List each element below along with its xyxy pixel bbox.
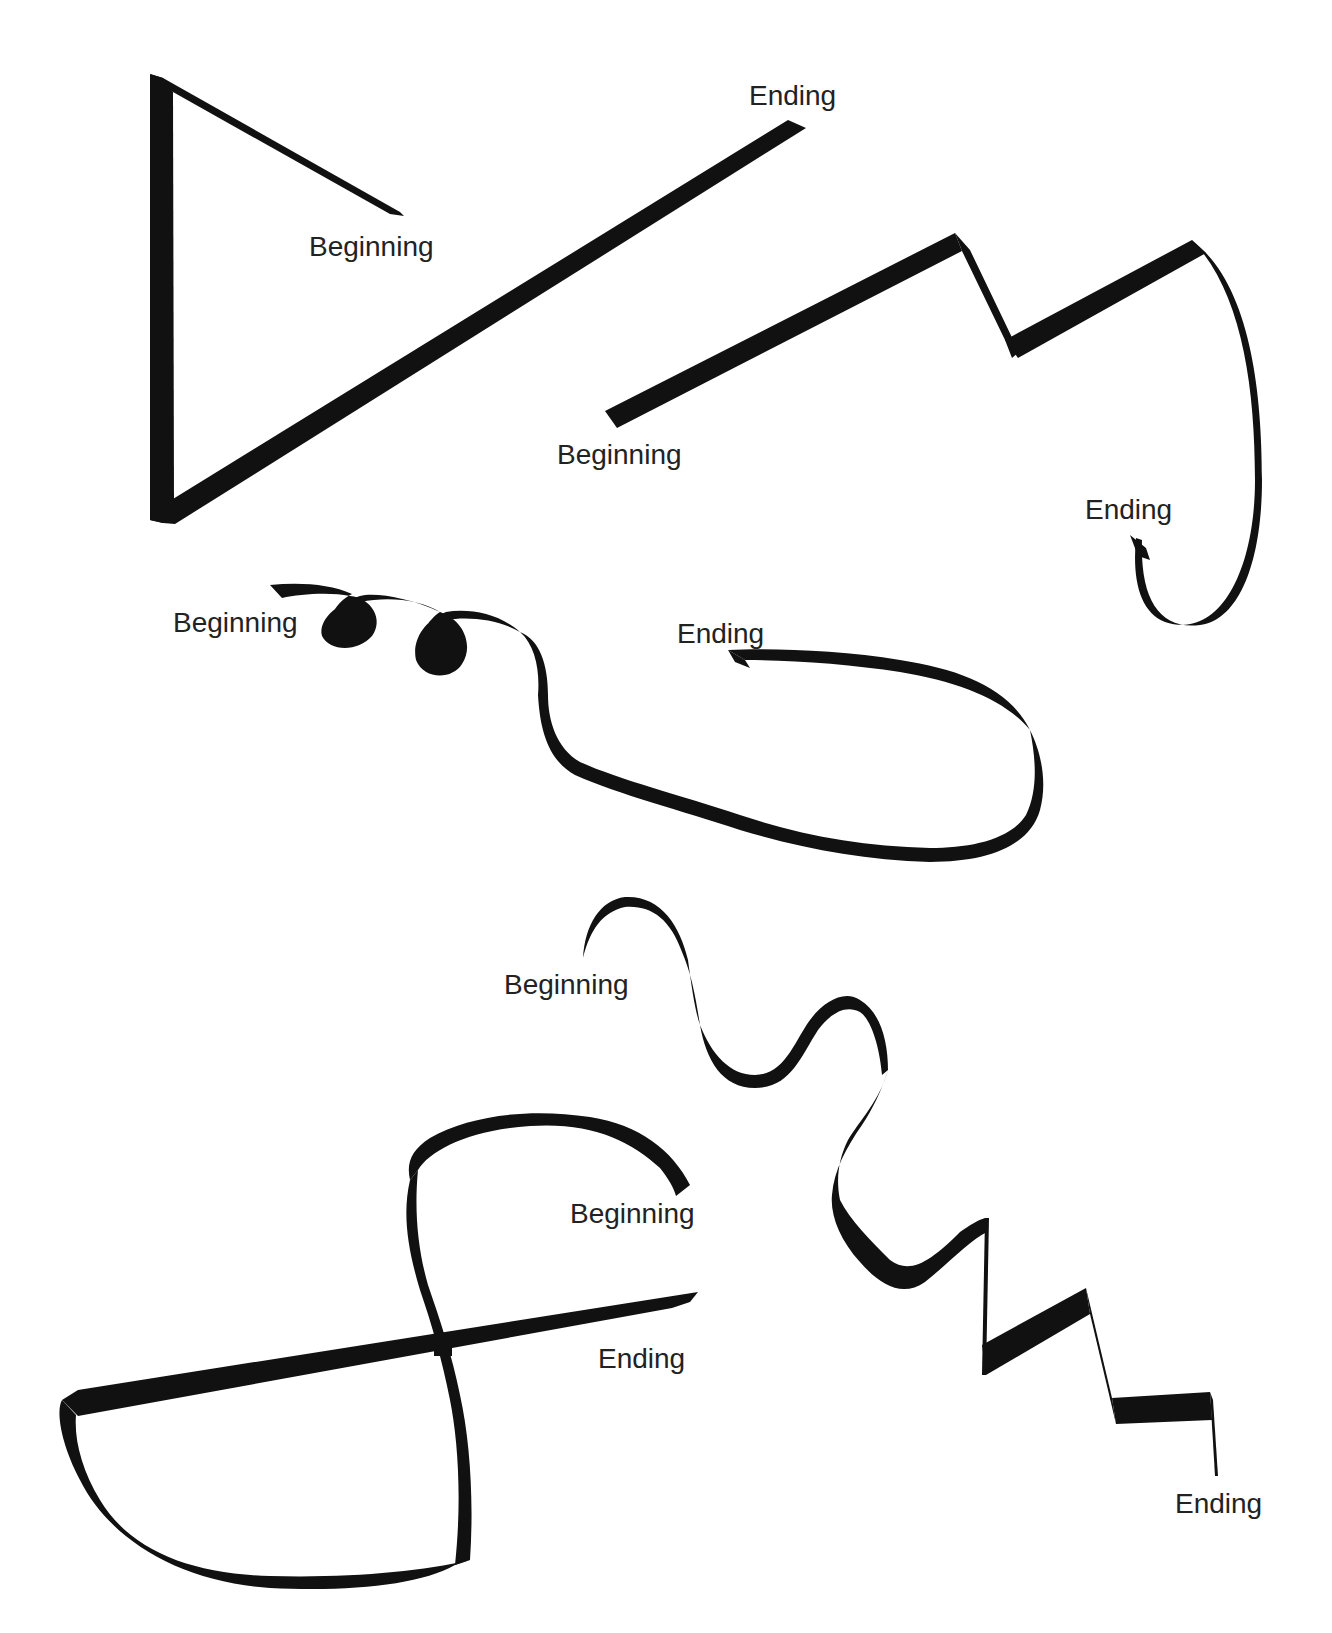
ribbon-2-long-rise <box>605 233 962 428</box>
ribbon-3-strand <box>520 632 1043 862</box>
ribbon-1-top-edge <box>150 74 404 216</box>
ribbon-1-diagonal-edge <box>150 120 806 524</box>
ribbon-4-ending-label: Ending <box>1175 1490 1262 1518</box>
ribbon-2-zigzag-hook <box>605 233 1262 626</box>
ribbon-5-crossing <box>434 1342 452 1356</box>
ribbon-figure-canvas <box>0 0 1332 1633</box>
ribbon-3-beginning-label: Beginning <box>173 609 298 637</box>
ribbon-5-ending-label: Ending <box>598 1345 685 1373</box>
ribbon-4-step-2-flat <box>1112 1392 1212 1424</box>
ribbon-1-vertical-edge <box>150 74 174 523</box>
ribbon-5-top-arc <box>409 1113 690 1196</box>
ribbon-4-start-arch <box>583 897 700 1025</box>
ribbon-4-step-1-rise <box>982 1288 1090 1375</box>
ribbon-2-hook-end <box>1130 535 1150 560</box>
ribbon-3-curls-loop <box>270 584 1043 862</box>
ribbon-3-second-curl <box>415 611 520 676</box>
ribbon-1-triangle <box>150 74 806 524</box>
ribbon-2-beginning-label: Beginning <box>557 441 682 469</box>
ribbon-4-step-2-down <box>1086 1288 1116 1424</box>
ribbon-2-hook <box>1135 240 1262 626</box>
ribbon-2-ending-label: Ending <box>1085 496 1172 524</box>
ribbon-2-short-rise <box>1005 240 1206 358</box>
ribbon-4-end-tail <box>1210 1392 1218 1476</box>
ribbon-4-beginning-label: Beginning <box>504 971 629 999</box>
ribbon-4-wave-2 <box>832 1070 987 1289</box>
ribbon-5-beginning-label: Beginning <box>570 1200 695 1228</box>
ribbon-1-beginning-label: Beginning <box>309 233 434 261</box>
ribbon-4-wave-1 <box>700 996 888 1088</box>
ribbon-5-bottom-bowl <box>59 1400 470 1589</box>
ribbon-3-ending-label: Ending <box>677 620 764 648</box>
ribbon-3-loop-top <box>728 649 1030 730</box>
ribbon-5-s-stroke <box>406 1170 471 1565</box>
ribbon-1-ending-label: Ending <box>749 82 836 110</box>
